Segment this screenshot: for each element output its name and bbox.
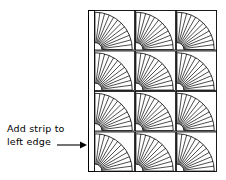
annotation-line-2: left edge [7,136,85,149]
fan-block [95,11,135,51]
fan-block [95,132,135,172]
annotation-line-1: Add strip to [7,123,85,136]
fan-block [136,11,176,51]
fan-block [177,51,217,91]
quilt-group [89,11,217,172]
annotation-label: Add strip to left edge [7,123,85,148]
fan-block [177,11,217,51]
fan-block [136,132,176,172]
fan-block [177,132,217,172]
left-edge-strip [89,11,95,172]
fan-block [95,51,135,91]
fan-block [136,51,176,91]
fan-block [177,92,217,132]
fan-block [136,92,176,132]
quilt-diagram [0,0,226,180]
diagram-canvas: Add strip to left edge [0,0,226,180]
fan-block [95,92,135,132]
